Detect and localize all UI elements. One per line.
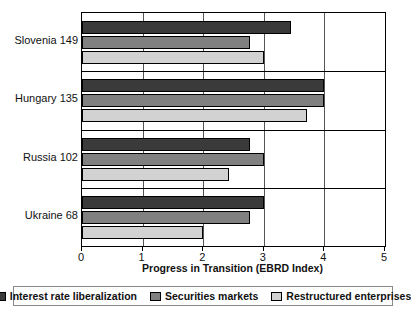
bar-ukraine-interest-rate-liberalization <box>82 196 264 209</box>
category-label-ukraine: Ukraine 68 <box>2 209 78 221</box>
bar-ukraine-securities-markets <box>82 211 250 224</box>
bar-slovenia-securities-markets <box>82 36 250 49</box>
bar-slovenia-restructured-enterprises <box>82 51 264 64</box>
bar-ukraine-restructured-enterprises <box>82 226 203 239</box>
bar-russia-securities-markets <box>82 153 264 166</box>
bar-russia-restructured-enterprises <box>82 168 229 181</box>
plot-area <box>81 12 386 247</box>
bar-group-russia <box>82 130 385 188</box>
group-separator <box>82 130 385 131</box>
legend-item-interest-rate-liberalization: Interest rate liberalization <box>0 290 137 302</box>
bar-group-hungary <box>82 71 385 129</box>
group-separator <box>82 71 385 72</box>
x-axis-title: Progress in Transition (EBRD Index) <box>81 262 384 274</box>
bar-group-ukraine <box>82 188 385 246</box>
category-axis-labels: Slovenia 149 Hungary 135 Russia 102 Ukra… <box>0 12 78 245</box>
bar-hungary-restructured-enterprises <box>82 109 307 122</box>
legend-item-restructured-enterprises: Restructured enterprises <box>271 290 411 302</box>
legend-label-series-0: Interest rate liberalization <box>10 290 137 302</box>
bar-russia-interest-rate-liberalization <box>82 138 250 151</box>
category-label-russia: Russia 102 <box>2 151 78 163</box>
group-separator <box>82 188 385 189</box>
bar-slovenia-interest-rate-liberalization <box>82 21 291 34</box>
category-label-slovenia: Slovenia 149 <box>2 34 78 46</box>
bar-hungary-interest-rate-liberalization <box>82 79 324 92</box>
legend-label-series-2: Restructured enterprises <box>286 290 411 302</box>
bar-hungary-securities-markets <box>82 94 324 107</box>
legend-swatch-icon-series-0 <box>0 292 6 301</box>
legend-label-series-1: Securities markets <box>165 290 258 302</box>
legend-item-securities-markets: Securities markets <box>150 290 258 302</box>
category-label-hungary: Hungary 135 <box>2 92 78 104</box>
legend-swatch-icon-series-1 <box>150 292 161 301</box>
chart-legend: Interest rate liberalization Securities … <box>13 286 393 306</box>
legend-swatch-icon-series-2 <box>271 292 282 301</box>
bar-group-slovenia <box>82 13 385 71</box>
